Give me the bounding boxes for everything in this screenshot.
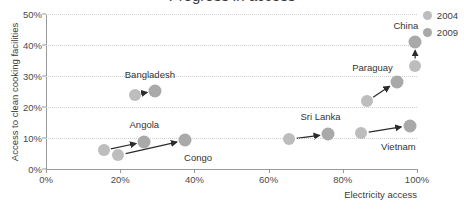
data-point-2004[interactable] (355, 127, 367, 139)
gridline-y (46, 14, 417, 15)
x-tick-mark (343, 169, 344, 173)
data-point-2004[interactable] (409, 60, 421, 72)
y-tick-label: 10% (23, 133, 42, 144)
data-point-2009[interactable] (149, 84, 162, 97)
data-point-2009[interactable] (390, 75, 403, 88)
x-axis-label: Electricity access (344, 189, 417, 200)
point-label-bangladesh: Bangladesh (125, 69, 175, 80)
y-tick-mark (42, 76, 46, 77)
gridline-y (46, 76, 417, 77)
data-point-2009[interactable] (138, 135, 151, 148)
data-point-2004[interactable] (361, 95, 373, 107)
x-tick-mark (194, 169, 195, 173)
legend-item-2009: 2009 (423, 27, 458, 38)
point-label-china: China (393, 19, 418, 30)
legend-dot-2004-icon (423, 11, 432, 20)
legend-dot-2009-icon (423, 28, 432, 37)
y-tick-label: 50% (23, 9, 42, 20)
legend-item-2004: 2004 (423, 10, 458, 21)
chart-title-cropped: Progress in access (0, 0, 464, 7)
x-tick-mark (46, 169, 47, 173)
y-tick-label: 40% (23, 40, 42, 51)
chart-legend: 2004 2009 (423, 10, 458, 38)
x-tick-label: 80% (333, 174, 352, 185)
y-tick-mark (42, 138, 46, 139)
point-label-angola: Angola (130, 119, 160, 130)
data-point-2009[interactable] (179, 134, 192, 147)
point-label-vietnam: Vietnam (381, 140, 416, 151)
y-tick-label: 0% (28, 164, 42, 175)
data-point-2009[interactable] (409, 35, 422, 48)
y-axis-label: Access to clean cooking facilities (9, 22, 20, 160)
x-tick-mark (120, 169, 121, 173)
arrow-icon (111, 143, 136, 148)
y-tick-label: 20% (23, 102, 42, 113)
plot-area: Access to clean cooking facilities Elect… (46, 14, 417, 169)
arrow-icon (373, 86, 389, 97)
x-tick-label: 0% (39, 174, 53, 185)
x-tick-mark (417, 169, 418, 173)
data-point-2004[interactable] (98, 144, 110, 156)
x-tick-mark (269, 169, 270, 173)
legend-label-2004: 2004 (437, 10, 458, 21)
gridline-y (46, 45, 417, 46)
legend-label-2009: 2009 (437, 27, 458, 38)
chart-title: Progress in access (0, 0, 464, 4)
x-tick-label: 40% (185, 174, 204, 185)
x-axis-line (46, 169, 417, 170)
y-tick-mark (42, 14, 46, 15)
gridline-y (46, 107, 417, 108)
data-point-2004[interactable] (112, 149, 124, 161)
data-point-2004[interactable] (283, 133, 295, 145)
data-point-2009[interactable] (403, 119, 416, 132)
data-point-2004[interactable] (129, 89, 141, 101)
x-tick-label: 100% (405, 174, 429, 185)
point-label-sri-lanka: Sri Lanka (300, 111, 340, 122)
arrow-icon (369, 127, 401, 132)
x-tick-label: 20% (111, 174, 130, 185)
x-tick-label: 60% (259, 174, 278, 185)
data-point-2009[interactable] (321, 128, 334, 141)
point-label-paraguay: Paraguay (352, 61, 393, 72)
y-tick-mark (42, 45, 46, 46)
arrow-icon (142, 92, 147, 93)
y-tick-label: 30% (23, 71, 42, 82)
arrow-icon (126, 142, 177, 154)
point-label-congo: Congo (184, 151, 212, 162)
y-tick-mark (42, 107, 46, 108)
scatter-chart: Progress in access Access to clean cooki… (0, 0, 464, 213)
